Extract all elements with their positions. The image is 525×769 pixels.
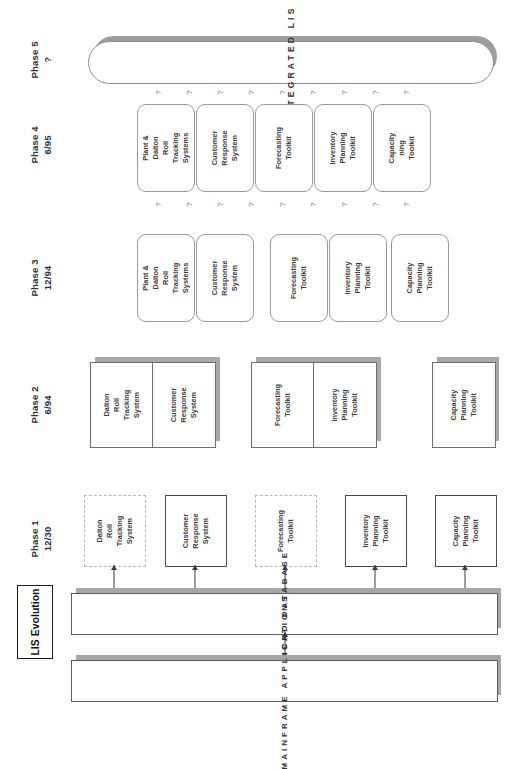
question-mark-icon: ? bbox=[340, 90, 349, 94]
question-mark-icon: ? bbox=[371, 90, 380, 94]
phase-2-name: Phase 2 bbox=[29, 386, 40, 423]
phase-4-name: Phase 4 bbox=[29, 126, 40, 163]
phase-3-name: Phase 3 bbox=[29, 259, 40, 296]
question-mark-icon: ? bbox=[154, 90, 163, 94]
phase2-box-forecasting-toolkit: Forecasting Toolkit bbox=[251, 362, 315, 448]
box-label: Capacity Planning Toolkit bbox=[451, 515, 481, 546]
question-mark-icon: ? bbox=[216, 90, 225, 94]
question-mark-icon: ? bbox=[402, 90, 411, 94]
phase4-box-capacity-planning-toolkit: Capacity ning Toolkit bbox=[373, 104, 431, 192]
phase2-box-dalton-roll-tracking-system: Dalton Roll Tracking System bbox=[90, 362, 154, 448]
phase4-box-inventory-planning-toolkit: Inventory Planning Toolkit bbox=[314, 104, 372, 192]
box-label: Dalton Roll Tracking System bbox=[102, 390, 142, 420]
question-mark-icon: ? bbox=[309, 202, 318, 206]
question-mark-icon: ? bbox=[247, 202, 256, 206]
phase-5-date: ? bbox=[42, 57, 53, 63]
phase-label-4: Phase 4 6/95 bbox=[0, 125, 102, 165]
box-label: Plant & Dalton Roll Tracking Systems bbox=[141, 133, 191, 163]
integrated-lis-bar: INTEGRATED LIS bbox=[88, 41, 494, 84]
box-label: Customer Response System bbox=[169, 387, 199, 422]
phase-label-2: Phase 2 6/94 bbox=[0, 385, 102, 425]
phase3-box-capacity-planning-toolkit: Capacity Planning Toolkit bbox=[391, 234, 449, 322]
phase-label-3: Phase 3 12/94 bbox=[0, 258, 102, 298]
mainframe-applications-label: MAINFRAME APPLICATIONS bbox=[280, 593, 289, 769]
phase-5-name: Phase 5 bbox=[29, 41, 40, 78]
box-label: Forecasting Toolkit bbox=[273, 384, 293, 426]
phase2-box-inventory-planning-toolkit: Inventory Planning Toolkit bbox=[313, 362, 377, 448]
phase-4-date: 6/95 bbox=[42, 135, 53, 154]
phase1-box-inventory-planning-toolkit: Inventory Planning Toolkit bbox=[345, 495, 407, 567]
question-mark-icon: ? bbox=[340, 202, 349, 206]
box-label: Inventory Planning Toolkit bbox=[361, 514, 391, 547]
question-mark-icon: ? bbox=[185, 202, 194, 206]
box-label: Forecasting Toolkit bbox=[276, 510, 296, 552]
mainframe-applications-bar: MAINFRAME APPLICATIONS bbox=[71, 660, 498, 702]
phase1-box-customer-response-system: Customer Response System bbox=[165, 495, 227, 567]
phase2-box-capacity-planning-toolkit: Capacity Planning Toolkit bbox=[432, 362, 496, 448]
question-mark-icon: ? bbox=[154, 202, 163, 206]
box-label: Capacity Planning Toolkit bbox=[449, 389, 479, 420]
question-mark-icon: ? bbox=[371, 202, 380, 206]
box-label: Customer Response System bbox=[210, 260, 240, 295]
phase3-box-plant-dalton-roll-tracking-systems: Plant & Dalton Roll Tracking Systems bbox=[137, 234, 195, 322]
box-label: Customer Response System bbox=[210, 130, 240, 165]
box-label: Capacity Planning Toolkit bbox=[405, 262, 435, 293]
phase-1-date: 12/30 bbox=[42, 527, 53, 552]
phase3-box-forecasting-toolkit: Forecasting Toolkit bbox=[270, 234, 328, 322]
question-mark-icon: ? bbox=[278, 90, 287, 94]
phase-1-name: Phase 1 bbox=[29, 520, 40, 557]
question-mark-icon: ? bbox=[309, 90, 318, 94]
question-mark-icon: ? bbox=[278, 202, 287, 206]
question-mark-icon: ? bbox=[185, 90, 194, 94]
phase-2-date: 6/94 bbox=[42, 395, 53, 414]
box-label: Forecasting Toolkit bbox=[289, 257, 309, 299]
page-title: LIS Evolution bbox=[17, 585, 53, 659]
question-mark-icon: ? bbox=[402, 202, 411, 206]
phase-label-5: Phase 5 ? bbox=[0, 40, 102, 80]
box-label: Forecasting Toolkit bbox=[274, 127, 294, 169]
phase1-box-dalton-roll-tracking-system: Dalton Roll Tracking System bbox=[84, 495, 146, 567]
page-title-text: LIS Evolution bbox=[29, 588, 41, 655]
integrated-lis-label: INTEGRATED LIS bbox=[286, 5, 296, 120]
box-label: Dalton Roll Tracking System bbox=[95, 516, 135, 546]
phase-3-date: 12/94 bbox=[42, 266, 53, 291]
phase3-box-customer-response-system: Customer Response System bbox=[196, 234, 254, 322]
box-label: Customer Response System bbox=[181, 513, 211, 548]
phase4-box-plant-dalton-roll-tracking-systems: Plant & Dalton Roll Tracking Systems bbox=[137, 104, 195, 192]
phase1-box-capacity-planning-toolkit: Capacity Planning Toolkit bbox=[435, 495, 497, 567]
box-label: Inventory Planning Toolkit bbox=[343, 261, 373, 294]
phase4-box-forecasting-toolkit: Forecasting Toolkit bbox=[255, 104, 313, 192]
box-label: Inventory Planning Toolkit bbox=[328, 131, 358, 164]
question-mark-icon: ? bbox=[216, 202, 225, 206]
phase2-box-customer-response-system: Customer Response System bbox=[152, 362, 216, 448]
phase3-box-inventory-planning-toolkit: Inventory Planning Toolkit bbox=[329, 234, 387, 322]
box-label: Inventory Planning Toolkit bbox=[330, 388, 360, 421]
box-label: Capacity ning Toolkit bbox=[387, 133, 417, 164]
phase4-box-customer-response-system: Customer Response System bbox=[196, 104, 254, 192]
box-label: Plant & Dalton Roll Tracking Systems bbox=[141, 263, 191, 293]
question-mark-icon: ? bbox=[247, 90, 256, 94]
